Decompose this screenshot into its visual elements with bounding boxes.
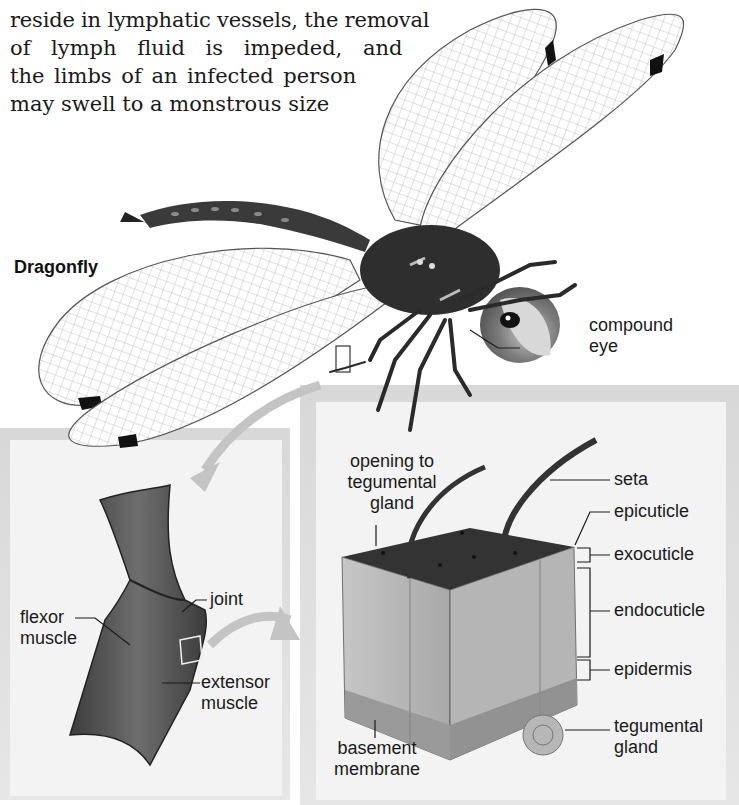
label-tegumental-gland: tegumental gland: [614, 716, 703, 758]
label-epidermis: epidermis: [614, 659, 692, 680]
label-seta: seta: [614, 469, 648, 490]
tegumental-gland: [523, 715, 563, 755]
abdomen: [120, 201, 370, 252]
label-joint: joint: [210, 589, 243, 610]
figure-title: Dragonfly: [14, 257, 98, 278]
label-flexor-muscle: flexor muscle: [20, 607, 77, 649]
label-epicuticle: epicuticle: [614, 501, 689, 522]
forewings: [379, 9, 684, 240]
label-extensor-muscle: extensor muscle: [201, 672, 270, 714]
label-compound-eye: compound eye: [589, 315, 673, 357]
label-basement-membrane: basement membrane: [325, 738, 429, 780]
label-exocuticle: exocuticle: [614, 544, 694, 565]
label-endocuticle: endocuticle: [614, 600, 705, 621]
thorax-and-head: [360, 225, 560, 363]
label-opening-to-tegumental-gland: opening to tegumental gland: [337, 451, 447, 514]
dragonfly-illustration: [0, 0, 739, 805]
